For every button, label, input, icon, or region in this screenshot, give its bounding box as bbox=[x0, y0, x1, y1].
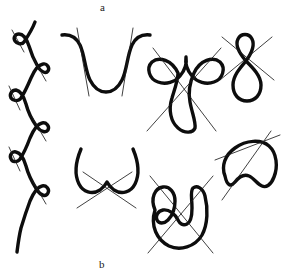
figure-drawing-canvas bbox=[0, 0, 287, 274]
panel-bunny bbox=[147, 48, 223, 132]
bunny-curve bbox=[149, 57, 223, 132]
spiral-horseshoe-curve bbox=[153, 187, 207, 248]
figure-eight-cross-line-2 bbox=[220, 37, 272, 80]
panel-spiral-horseshoe bbox=[148, 176, 213, 253]
serpentine-spine bbox=[10, 22, 48, 252]
figure-eight-cross-line-1 bbox=[222, 37, 274, 80]
u-curve bbox=[62, 35, 150, 92]
cusp-curve bbox=[76, 149, 138, 192]
figure-label-a: a bbox=[100, 2, 105, 13]
figure-container: a b bbox=[0, 0, 287, 274]
panel-cusp bbox=[76, 149, 138, 208]
u-curve-secant-left bbox=[77, 28, 89, 96]
figure-eight-curve bbox=[233, 35, 261, 102]
panel-serpentine bbox=[9, 22, 49, 252]
panel-bean bbox=[215, 131, 280, 200]
panel-u-curve bbox=[62, 28, 150, 96]
panel-figure-eight bbox=[220, 35, 274, 102]
figure-label-b: b bbox=[99, 259, 105, 270]
bean-curve bbox=[223, 141, 276, 186]
u-curve-secant-right bbox=[122, 28, 133, 96]
